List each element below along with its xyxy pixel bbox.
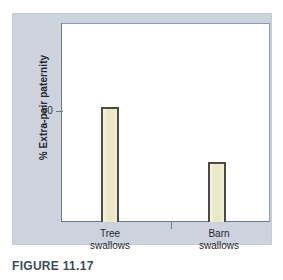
- figure-caption: FIGURE 11.17: [12, 259, 94, 273]
- x-axis-line: [61, 221, 270, 222]
- x-label-tree-line1: Tree: [100, 228, 120, 239]
- bar-barn-swallows: [208, 162, 226, 222]
- figure-panel: 50 % Extra-pair paternity Tree swallows …: [12, 13, 272, 245]
- plot-area: [61, 23, 270, 222]
- x-label-barn-line2: swallows: [174, 240, 264, 252]
- x-axis-label-barn-swallows: Barn swallows: [174, 228, 264, 252]
- x-label-barn-line1: Barn: [208, 228, 229, 239]
- y-axis-line: [61, 23, 62, 222]
- y-axis-tick-mark: [56, 111, 63, 112]
- bar-tree-swallows: [101, 107, 119, 222]
- figure-container: 50 % Extra-pair paternity Tree swallows …: [0, 0, 283, 280]
- x-axis-label-tree-swallows: Tree swallows: [65, 228, 155, 252]
- y-axis-title: % Extra-pair paternity: [38, 33, 49, 183]
- x-label-tree-line2: swallows: [65, 240, 155, 252]
- x-axis-center-tick: [171, 222, 172, 229]
